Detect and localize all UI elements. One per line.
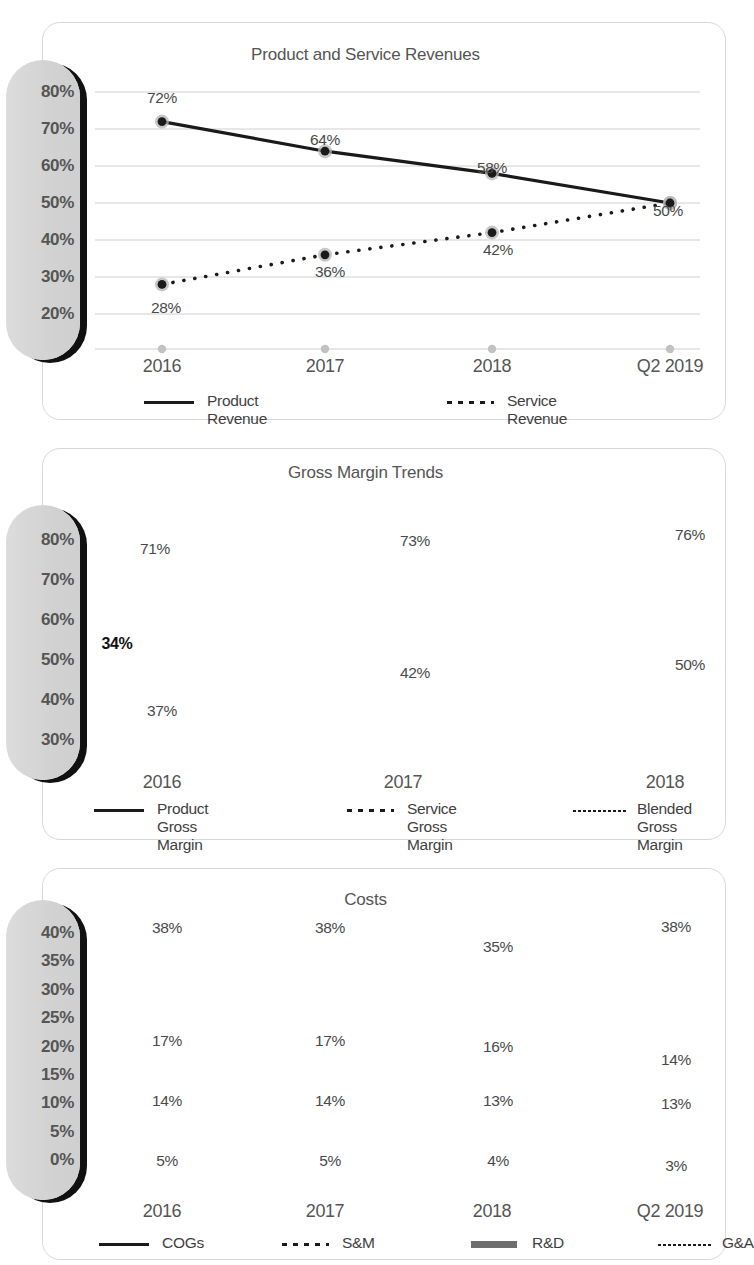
legend-key-line: [99, 1243, 149, 1246]
chart-title-gross-margin: Gross Margin Trends: [0, 463, 731, 483]
legend-key-line: [344, 809, 394, 812]
legend-key-solid-icon: [90, 804, 148, 818]
x-tick-label: 2018: [473, 356, 511, 377]
legend-label: Blended Gross Margin: [637, 800, 692, 853]
y-tick-label: 60%: [41, 610, 74, 630]
data-point-label: 3%: [665, 1157, 687, 1175]
data-point-label: 42%: [483, 241, 513, 259]
x-tick-label: 2018: [473, 1201, 511, 1222]
y-tick-label: 15%: [41, 1065, 74, 1085]
legend-label: COGs: [162, 1234, 204, 1252]
data-point-label: 50%: [653, 202, 683, 220]
x-tick-label: 2017: [306, 1201, 344, 1222]
legend-item-product-gross-margin[interactable]: Product Gross Margin: [90, 800, 208, 853]
legend-label: R&D: [532, 1234, 564, 1252]
gap-annotation-label: 34%: [102, 635, 133, 653]
x-tick-label: 2017: [306, 356, 344, 377]
legend-key-line: [657, 1244, 711, 1246]
legend-item-s-m[interactable]: S&M: [275, 1234, 375, 1252]
legend-label: Product Revenue: [207, 392, 267, 428]
x-tick-label: Q2 2019: [637, 1201, 703, 1222]
y-tick-label: 35%: [41, 951, 74, 971]
data-point-label: 64%: [310, 131, 340, 149]
y-tick-label: 70%: [41, 119, 74, 139]
y-tick-label: 80%: [41, 82, 74, 102]
y-tick-label: 40%: [41, 923, 74, 943]
legend-key-line: [444, 401, 494, 404]
legend-label: Service Revenue: [507, 392, 567, 428]
y-tick-label: 50%: [41, 650, 74, 670]
data-point-label: 38%: [152, 919, 182, 937]
data-point-label: 72%: [147, 89, 177, 107]
legend-label: Product Gross Margin: [157, 800, 208, 853]
data-point-label: 14%: [315, 1092, 345, 1110]
y-tick-label: 50%: [41, 193, 74, 213]
legend-label: S&M: [342, 1234, 375, 1252]
x-tick-label: 2018: [646, 772, 684, 793]
data-point-label: 5%: [319, 1152, 341, 1170]
x-tick-label: 2016: [143, 1201, 181, 1222]
x-tick-label: 2016: [143, 356, 181, 377]
y-tick-label: 40%: [41, 690, 74, 710]
x-tick-label: 2017: [384, 772, 422, 793]
y-tick-label: 20%: [41, 304, 74, 324]
data-point-label: 71%: [140, 540, 170, 558]
data-point-label: 28%: [151, 299, 181, 317]
legend-key-line: [144, 401, 194, 404]
legend-item-cogs[interactable]: COGs: [95, 1234, 204, 1252]
data-point-label: 76%: [675, 526, 705, 544]
data-point-label: 58%: [477, 159, 507, 177]
data-point-label: 42%: [400, 664, 430, 682]
data-point-label: 50%: [675, 656, 705, 674]
legend-key-line: [572, 810, 626, 812]
data-point-label: 37%: [147, 702, 177, 720]
legend-key-dots-icon: [340, 804, 398, 818]
legend-key-dots-icon: [275, 1238, 333, 1252]
legend-key-dots-icon: [440, 396, 498, 410]
y-tick-label: 10%: [41, 1093, 74, 1113]
y-tick-label: 30%: [41, 730, 74, 750]
legend-item-g-a[interactable]: G&A: [655, 1234, 754, 1252]
data-point-label: 38%: [661, 918, 691, 936]
legend-label: Service Gross Margin: [407, 800, 457, 853]
x-tick-label: Q2 2019: [637, 356, 703, 377]
legend-item-service-revenue[interactable]: Service Revenue: [440, 392, 567, 428]
y-tick-label: 30%: [41, 980, 74, 1000]
legend-key-solid-icon: [95, 1238, 153, 1252]
data-point-label: 4%: [487, 1152, 509, 1170]
y-tick-label: 40%: [41, 230, 74, 250]
legend-key-line: [279, 1243, 329, 1246]
data-point-label: 16%: [483, 1038, 513, 1056]
data-point-label: 5%: [156, 1152, 178, 1170]
data-point-label: 13%: [661, 1095, 691, 1113]
data-point-label: 38%: [315, 919, 345, 937]
y-tick-label: 80%: [41, 530, 74, 550]
legend-key-solid-icon: [140, 396, 198, 410]
legend-key-line: [94, 809, 144, 812]
data-point-label: 35%: [483, 938, 513, 956]
data-point-label: 14%: [661, 1051, 691, 1069]
legend-key-fine-icon: [655, 1238, 713, 1252]
y-tick-label: 60%: [41, 156, 74, 176]
data-point-label: 17%: [315, 1032, 345, 1050]
legend-label: G&A: [722, 1234, 754, 1252]
chart-title-costs: Costs: [0, 890, 731, 910]
x-tick-label: 2016: [143, 772, 181, 793]
data-point-label: 36%: [315, 263, 345, 281]
legend-item-r-d[interactable]: R&D: [465, 1234, 564, 1252]
data-point-label: 14%: [152, 1092, 182, 1110]
y-tick-label: 5%: [50, 1122, 74, 1142]
y-tick-label: 30%: [41, 267, 74, 287]
y-tick-label: 70%: [41, 570, 74, 590]
legend-item-blended-gross-margin[interactable]: Blended Gross Margin: [570, 800, 692, 853]
data-point-label: 17%: [152, 1032, 182, 1050]
y-tick-label: 0%: [50, 1150, 74, 1170]
legend-item-service-gross-margin[interactable]: Service Gross Margin: [340, 800, 457, 853]
legend-key-thick-icon: [465, 1238, 523, 1252]
legend-key-fine-icon: [570, 804, 628, 818]
y-tick-label: 25%: [41, 1008, 74, 1028]
legend-key-line: [471, 1241, 517, 1248]
legend-item-product-revenue[interactable]: Product Revenue: [140, 392, 267, 428]
y-tick-label: 20%: [41, 1037, 74, 1057]
